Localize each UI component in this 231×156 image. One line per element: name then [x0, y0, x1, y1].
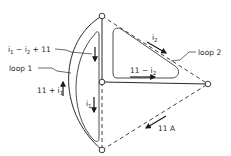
label-11-plus-i1: 11 + i1 [37, 86, 63, 96]
label-11-minus-i2: 11 − i2 [130, 66, 156, 76]
label-loop2: loop 2 [198, 48, 221, 57]
node-bottom [99, 147, 105, 153]
node-right [205, 81, 211, 87]
leader-loop1 [38, 68, 71, 73]
branch-bottom-right [102, 84, 208, 150]
node-top [99, 13, 105, 19]
label-loop1: loop 1 [9, 64, 32, 73]
leader-loop2 [171, 52, 196, 61]
circuit-svg: i1 − i2 + 11 loop 1 11 + i1 i1 i2 loop 2… [0, 0, 231, 156]
label-i1-minus-i2-plus-11: i1 − i2 + 11 [8, 45, 51, 55]
branch-center-right [102, 82, 208, 84]
circuit-diagram: i1 − i2 + 11 loop 1 11 + i1 i1 i2 loop 2… [0, 0, 231, 156]
branch-arc-top-bottom [69, 16, 102, 150]
label-i2: i2 [152, 33, 158, 43]
label-11A: 11 A [158, 124, 176, 133]
label-i1: i1 [86, 99, 92, 109]
node-center [99, 79, 105, 85]
